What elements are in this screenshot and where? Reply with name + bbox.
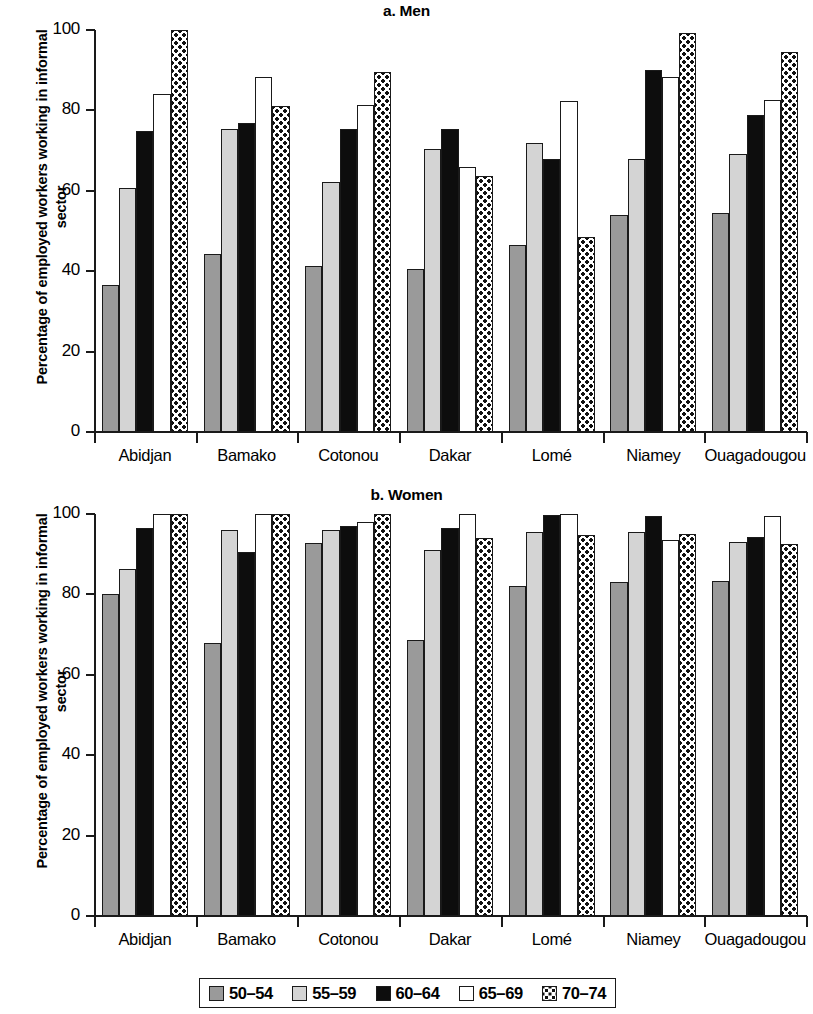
bar-niamey-60-64: [645, 516, 662, 916]
bar-cotonou-50-54: [305, 266, 322, 432]
legend-swatch-icon-50-54: [209, 986, 224, 1001]
x-tick-4: [501, 432, 503, 443]
bar-niamey-70-74: [679, 534, 696, 916]
y-tick-label-60: 60: [34, 664, 80, 684]
y-tick-60: [86, 674, 95, 676]
bar-niamey-65-69: [662, 77, 679, 432]
bar-abidjan-55-59: [119, 569, 136, 916]
bar-bamako-55-59: [221, 129, 238, 432]
bar-ouagadougou-50-54: [712, 213, 729, 432]
bar-bamako-50-54: [204, 254, 221, 432]
bar-dakar-60-64: [441, 129, 458, 432]
bar-abidjan-70-74: [171, 514, 188, 916]
bar-lom-50-54: [509, 245, 526, 432]
x-axis-label-bamako: Bamako: [196, 930, 298, 949]
bar-bamako-65-69: [255, 77, 272, 432]
bar-lom-60-64: [543, 515, 560, 916]
y-tick-label-80: 80: [34, 99, 80, 119]
x-tick-1: [196, 432, 198, 443]
figure-root: a. Men Percentage of employed workers wo…: [0, 0, 813, 1014]
y-tick-label-60: 60: [34, 180, 80, 200]
bar-abidjan-55-59: [119, 188, 136, 432]
x-axis-label-cotonou: Cotonou: [297, 446, 399, 465]
bar-ouagadougou-55-59: [729, 542, 746, 916]
x-axis-label-lom: Lomé: [501, 930, 603, 949]
x-tick-7: [806, 916, 808, 927]
legend-label: 65–69: [479, 984, 523, 1003]
bar-lom-55-59: [526, 532, 543, 916]
x-axis-label-niamey: Niamey: [603, 446, 705, 465]
bar-niamey-70-74: [679, 33, 696, 432]
chart-title-a: a. Men: [0, 2, 813, 20]
x-tick-5: [603, 916, 605, 927]
bar-dakar-55-59: [424, 550, 441, 916]
legend-label: 50–54: [229, 984, 273, 1003]
bar-cotonou-65-69: [357, 105, 374, 432]
bar-dakar-50-54: [407, 269, 424, 432]
bar-ouagadougou-70-74: [781, 52, 798, 432]
bar-lom-60-64: [543, 159, 560, 432]
chart-panel-men: a. Men Percentage of employed workers wo…: [0, 0, 813, 478]
bar-bamako-60-64: [238, 123, 255, 432]
bar-ouagadougou-55-59: [729, 154, 746, 432]
bar-cotonou-60-64: [340, 526, 357, 916]
bar-dakar-55-59: [424, 149, 441, 432]
y-tick-20: [86, 351, 95, 353]
bar-cotonou-60-64: [340, 129, 357, 433]
bar-abidjan-65-69: [153, 94, 170, 432]
x-axis-label-bamako: Bamako: [196, 446, 298, 465]
legend-label: 70–74: [562, 984, 606, 1003]
bar-lom-70-74: [578, 535, 595, 916]
y-tick-label-100: 100: [34, 19, 80, 39]
y-tick-label-40: 40: [34, 744, 80, 764]
bar-cotonou-65-69: [357, 522, 374, 916]
bar-abidjan-50-54: [102, 594, 119, 916]
bar-abidjan-70-74: [171, 30, 188, 432]
bar-bamako-55-59: [221, 530, 238, 916]
x-axis-label-dakar: Dakar: [399, 930, 501, 949]
x-axis-label-niamey: Niamey: [603, 930, 705, 949]
bar-ouagadougou-65-69: [764, 516, 781, 916]
y-tick-label-20: 20: [34, 825, 80, 845]
x-axis-label-cotonou: Cotonou: [297, 930, 399, 949]
y-tick-40: [86, 270, 95, 272]
y-tick-label-40: 40: [34, 260, 80, 280]
bar-dakar-70-74: [476, 176, 493, 432]
y-tick-80: [86, 109, 95, 111]
x-axis-label-abidjan: Abidjan: [94, 930, 196, 949]
y-tick-40: [86, 754, 95, 756]
x-tick-0: [94, 432, 96, 443]
bar-lom-65-69: [560, 101, 577, 432]
legend-item-55-59: 55–59: [292, 984, 356, 1003]
bar-niamey-50-54: [610, 215, 627, 432]
bar-ouagadougou-60-64: [747, 115, 764, 432]
bar-lom-65-69: [560, 514, 577, 916]
bar-bamako-70-74: [272, 514, 289, 916]
x-tick-1: [196, 916, 198, 927]
x-axis-label-lom: Lomé: [501, 446, 603, 465]
bar-lom-55-59: [526, 143, 543, 432]
chart-panel-women: b. Women Percentage of employed workers …: [0, 484, 813, 962]
y-tick-label-20: 20: [34, 341, 80, 361]
legend-swatch-icon-70-74: [542, 986, 557, 1001]
plot-area-women: [94, 514, 806, 916]
x-tick-6: [704, 916, 706, 927]
x-tick-7: [806, 432, 808, 443]
y-tick-20: [86, 835, 95, 837]
x-axis-label-dakar: Dakar: [399, 446, 501, 465]
x-tick-2: [297, 916, 299, 927]
bar-bamako-50-54: [204, 643, 221, 916]
legend-swatch-icon-60-64: [376, 986, 391, 1001]
x-tick-4: [501, 916, 503, 927]
y-tick-60: [86, 190, 95, 192]
legend-item-50-54: 50–54: [209, 984, 273, 1003]
x-tick-5: [603, 432, 605, 443]
legend-item-60-64: 60–64: [376, 984, 440, 1003]
bar-cotonou-70-74: [374, 72, 391, 432]
legend-label: 60–64: [396, 984, 440, 1003]
y-tick-100: [86, 29, 95, 31]
legend-item-65-69: 65–69: [459, 984, 523, 1003]
bar-abidjan-65-69: [153, 514, 170, 916]
bar-lom-50-54: [509, 586, 526, 916]
chart-legend: 50–5455–5960–6465–6970–74: [199, 978, 616, 1008]
